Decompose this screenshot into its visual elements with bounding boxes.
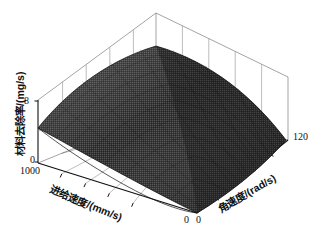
z-axis-tick-0: 0 <box>30 155 35 165</box>
y-axis-tick-0: 0 <box>196 215 201 225</box>
surface-plot-3d <box>0 0 323 244</box>
z-axis-tick-8: 8 <box>24 96 29 106</box>
x-axis-tick-1000: 1000 <box>20 166 40 176</box>
z-axis-title: 材料去除率/(mg/s) <box>15 72 26 156</box>
x-axis-tick-0: 0 <box>184 215 189 225</box>
y-axis-tick-120: 120 <box>293 132 308 142</box>
figure-canvas: 材料去除率/(mg/s) 进给速度/(mm/s) 角速度/(rad/s) 8 0… <box>0 0 323 244</box>
